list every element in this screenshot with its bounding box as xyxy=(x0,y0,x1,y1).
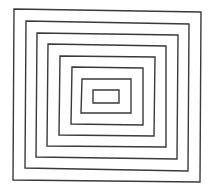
concentric-rectangles-figure xyxy=(0,0,211,194)
rect-3 xyxy=(36,33,178,159)
rectangles-group xyxy=(13,9,201,182)
rect-7 xyxy=(81,79,131,113)
rect-8-innermost xyxy=(93,90,119,103)
rect-4 xyxy=(47,44,166,147)
